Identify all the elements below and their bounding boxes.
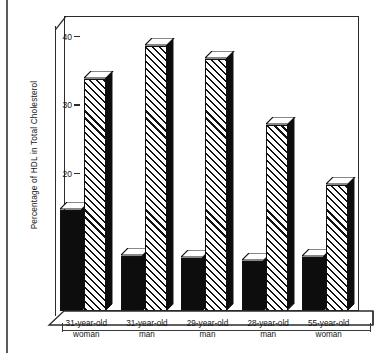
- x-axis-label: 55-year-oldwoman: [290, 318, 367, 340]
- bar-group: [117, 26, 178, 311]
- y-axis-title: Percentage of HDL in Total Cholesterol: [29, 55, 39, 255]
- bar-face: [145, 46, 167, 311]
- bar-top-face: [205, 51, 235, 59]
- x-axis-label-line1: 55-year-old: [308, 319, 349, 328]
- x-axis-label-line1: 29-year-old: [187, 319, 228, 328]
- x-axis-label-line1: 31-year-old: [126, 319, 167, 328]
- bar-side-face: [226, 52, 234, 311]
- x-axis-label-line2: woman: [290, 329, 367, 340]
- bar-diagonal-hatched-bar: [266, 125, 288, 311]
- bar-face: [205, 59, 227, 311]
- bar-top-face: [326, 177, 356, 185]
- x-axis-labels: 31-year-oldwoman31-year-oldman29-year-ol…: [40, 318, 380, 353]
- plot-area: 0 10 20 30 40: [40, 12, 380, 337]
- bar-diagonal-hatched-bar: [205, 59, 227, 311]
- bar-top-face: [84, 71, 114, 79]
- page-margin-rule: [6, 0, 8, 353]
- bar-side-face: [166, 39, 174, 311]
- bar-side-face: [105, 72, 113, 311]
- x-axis-label-line1: 31-year-old: [66, 319, 107, 328]
- bar-top-face: [145, 38, 175, 46]
- x-axis-label-line1: 28-year-old: [247, 319, 288, 328]
- bar-top-face: [266, 117, 296, 125]
- bar-diagonal-hatched-bar: [84, 79, 106, 311]
- bar-side-face: [287, 118, 295, 311]
- hdl-cholesterol-bar-chart: Percentage of HDL in Total Cholesterol 0…: [0, 0, 387, 353]
- bar-group: [238, 26, 299, 311]
- bar-group: [177, 26, 238, 311]
- bar-face: [266, 125, 288, 311]
- bar-group: [56, 26, 117, 311]
- bars-container: [56, 26, 359, 311]
- bar-diagonal-hatched-bar: [145, 46, 167, 311]
- bar-group: [298, 26, 359, 311]
- bar-face: [84, 79, 106, 311]
